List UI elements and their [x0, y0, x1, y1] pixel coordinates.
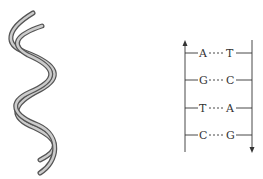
base-left: T	[199, 102, 207, 115]
base-left: A	[198, 47, 208, 60]
pair-row-2: T A	[185, 102, 252, 115]
base-left: G	[199, 74, 208, 87]
pair-row-3: C G	[185, 129, 252, 142]
pair-row-1: G C	[185, 74, 252, 87]
base-right: A	[225, 102, 235, 115]
base-right: C	[226, 74, 234, 87]
up-arrow-icon	[183, 40, 188, 46]
base-left: C	[199, 129, 207, 142]
base-pair-ladder: A T G C T A C G	[0, 0, 263, 179]
base-right: T	[226, 47, 234, 60]
down-arrow-icon	[250, 147, 255, 153]
base-right: G	[226, 129, 235, 142]
pair-row-0: A T	[185, 47, 252, 60]
